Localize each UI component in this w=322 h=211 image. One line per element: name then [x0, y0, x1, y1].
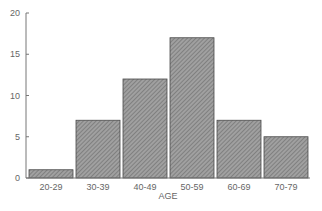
x-tick-label: 70-79: [274, 182, 297, 192]
x-tick-label: 20-29: [39, 182, 62, 192]
bar-60-69: [217, 120, 261, 178]
bar-70-79: [264, 137, 308, 178]
y-tick-label: 10: [10, 91, 20, 101]
bar-40-49: [123, 79, 167, 178]
x-axis-title: AGE: [158, 191, 177, 201]
age-bar-chart: 05101520 20-2930-3940-4950-5960-6970-79 …: [0, 0, 322, 211]
x-tick-label: 40-49: [133, 182, 156, 192]
y-tick-label: 0: [15, 173, 20, 183]
x-tick-label: 50-59: [180, 182, 203, 192]
bar-20-29: [29, 170, 73, 178]
bars: [29, 38, 308, 178]
bar-50-59: [170, 38, 214, 178]
y-tick-label: 15: [10, 49, 20, 59]
y-tick-label: 20: [10, 8, 20, 18]
y-tick-label: 5: [15, 132, 20, 142]
y-axis: 05101520: [10, 8, 29, 183]
x-tick-label: 30-39: [86, 182, 109, 192]
bar-30-39: [76, 120, 120, 178]
x-tick-label: 60-69: [227, 182, 250, 192]
